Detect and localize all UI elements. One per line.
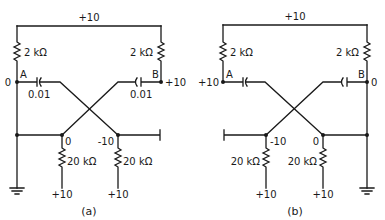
bottom-supply-right-b: +10: [312, 189, 333, 200]
resistor-20k-left-label-a: 20 kΩ: [67, 156, 97, 167]
resistor-left-label-a: 2 kΩ: [24, 47, 47, 58]
node-a-label-a: A: [20, 69, 27, 80]
resistor-2k-right-b: [364, 25, 370, 188]
resistor-20k-right-label-b: 20 kΩ: [288, 156, 318, 167]
caption-a: (a): [81, 205, 96, 218]
resistor-right-label-a: 2 kΩ: [130, 47, 153, 58]
flip-flop-diagram: +10 2 kΩ 2 kΩ A 0 B +10 0.01 0.01 0 20 k…: [0, 0, 385, 220]
node-b-voltage-a: +10: [165, 77, 186, 88]
bottom-left-voltage-a: 0: [65, 136, 71, 147]
resistor-left-label-b: 2 kΩ: [230, 47, 253, 58]
figure-a: +10 2 kΩ 2 kΩ A 0 B +10 0.01 0.01 0 20 k…: [5, 12, 186, 218]
node-a-label-b: A: [226, 69, 233, 80]
node-b-label-a: B: [152, 69, 159, 80]
resistor-20k-right-label-a: 20 kΩ: [123, 156, 153, 167]
resistor-2k-right-a: [158, 26, 164, 82]
resistor-20k-left-label-b: 20 kΩ: [231, 156, 261, 167]
caption-b: (b): [287, 205, 303, 218]
figure-b: +10 2 kΩ 2 kΩ A +10 B 0 -10 20 kΩ +10 0 …: [198, 11, 377, 218]
supply-label-a: +10: [78, 12, 99, 23]
resistor-20k-right-a: [115, 135, 121, 188]
resistor-right-label-b: 2 kΩ: [336, 47, 359, 58]
cap-left-label-a: 0.01: [28, 89, 50, 100]
bottom-supply-left-a: +10: [51, 189, 72, 200]
capacitor-right-a: [62, 78, 161, 135]
node-a-voltage-b: +10: [198, 77, 219, 88]
cap-right-label-a: 0.01: [130, 89, 152, 100]
bottom-right-voltage-b: 0: [313, 136, 319, 147]
capacitor-right-b: [266, 78, 367, 135]
resistor-20k-right-b: [320, 135, 326, 188]
bus-right-a: [118, 130, 160, 140]
capacitor-left-a: [17, 78, 118, 135]
bottom-supply-right-a: +10: [107, 189, 128, 200]
junction-dot-b: [365, 133, 369, 137]
ground-icon-a: [10, 188, 24, 194]
node-a-voltage-a: 0: [5, 77, 11, 88]
node-b-label-b: B: [358, 69, 365, 80]
bottom-supply-left-b: +10: [255, 189, 276, 200]
resistor-20k-left-b: [263, 135, 269, 188]
supply-label-b: +10: [284, 11, 305, 22]
bus-left-b: [224, 130, 266, 140]
ground-icon-b: [360, 188, 374, 194]
bottom-right-voltage-a: -10: [98, 136, 114, 147]
bottom-left-voltage-b: -10: [270, 136, 286, 147]
node-b-voltage-b: 0: [371, 77, 377, 88]
capacitor-left-b: [223, 78, 323, 135]
